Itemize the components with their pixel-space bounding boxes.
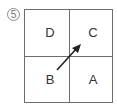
quadrant-label-d: D	[40, 26, 60, 40]
quadrant-grid	[0, 0, 117, 112]
quadrant-label-b: B	[40, 73, 60, 87]
quadrant-label-c: C	[83, 26, 103, 40]
quadrant-label-a: A	[83, 73, 103, 87]
